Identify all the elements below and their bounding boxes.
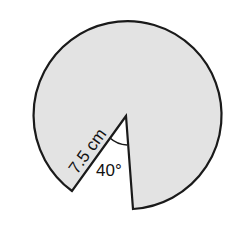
sector-diagram: 7.5 cm 40° — [0, 0, 225, 228]
major-sector-shape — [34, 21, 222, 209]
angle-arc — [110, 138, 127, 145]
angle-label: 40° — [96, 161, 122, 180]
